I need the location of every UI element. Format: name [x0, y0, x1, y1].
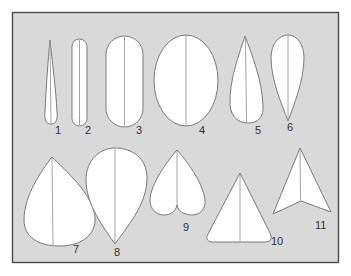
leaf-label-7: 7 — [73, 243, 79, 255]
leaf-label-9: 9 — [183, 221, 189, 233]
leaf-label-5: 5 — [255, 124, 261, 136]
leaf-label-2: 2 — [85, 124, 91, 136]
leaf-label-6: 6 — [287, 121, 293, 133]
leaf-label-1: 1 — [55, 124, 61, 136]
leaf-label-3: 3 — [136, 124, 142, 136]
leaf-shapes-diagram: 1 2 3 4 5 6 — [0, 0, 351, 276]
leaf-label-4: 4 — [199, 124, 205, 136]
leaf-label-10: 10 — [271, 235, 283, 247]
leaf-label-11: 11 — [315, 219, 326, 231]
leaf-shape-3: 3 — [106, 36, 143, 136]
leaf-label-8: 8 — [114, 246, 120, 258]
